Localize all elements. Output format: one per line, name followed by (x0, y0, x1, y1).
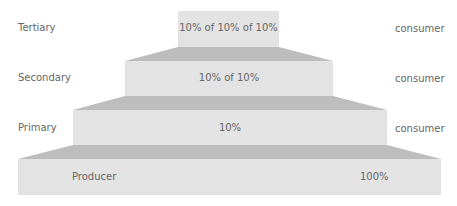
consumer-label-tertiary: consumer (395, 23, 445, 34)
value-secondary: 10% of 10% (125, 72, 333, 83)
value-producer: 100% (360, 171, 389, 182)
label-secondary: Secondary (18, 72, 71, 83)
label-primary: Primary (18, 122, 57, 133)
label-tertiary: Tertiary (18, 22, 56, 33)
producer-top-face (18, 145, 441, 159)
consumer-label-primary: consumer (395, 123, 445, 134)
consumer-label-secondary: consumer (395, 73, 445, 84)
primary-top-face (73, 96, 387, 110)
label-producer: Producer (72, 171, 116, 182)
value-primary: 10% (73, 122, 387, 133)
value-tertiary: 10% of 10% of 10% (178, 22, 279, 33)
secondary-top-face (125, 47, 333, 61)
